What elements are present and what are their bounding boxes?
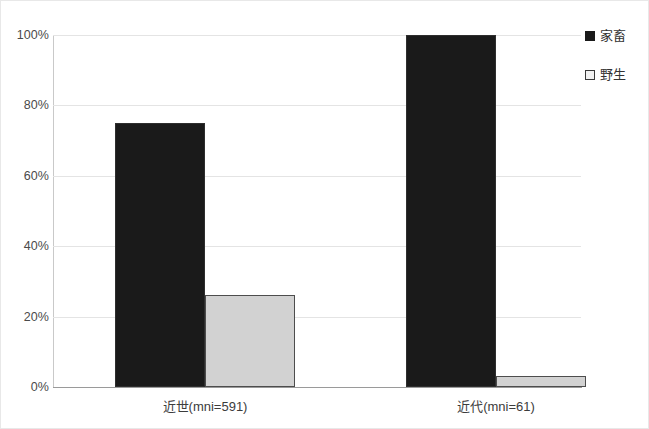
bar-wild-1 — [496, 376, 586, 387]
y-tick-label: 0% — [5, 381, 49, 394]
y-tick-label: 60% — [5, 170, 49, 183]
chart-legend: 家畜野生 — [585, 29, 647, 107]
legend-label: 野生 — [600, 68, 626, 81]
y-tick-label: 40% — [5, 240, 49, 253]
x-tick-label: 近世(mni=591) — [115, 397, 295, 417]
gridline-0 — [53, 387, 581, 388]
filled-square-icon — [585, 31, 595, 41]
outlined-square-icon — [585, 70, 595, 80]
gridline-100 — [53, 35, 581, 36]
y-axis-labels: 0%20%40%60%80%100% — [1, 35, 49, 387]
x-axis-labels: 近世(mni=591)近代(mni=61) — [53, 397, 581, 423]
y-tick-label: 80% — [5, 99, 49, 112]
legend-entry-livestock[interactable]: 家畜 — [585, 29, 647, 42]
legend-entry-wild[interactable]: 野生 — [585, 68, 647, 81]
bar-livestock-0 — [115, 123, 205, 387]
bar-wild-0 — [205, 295, 295, 387]
legend-label: 家畜 — [600, 29, 626, 42]
plot-area — [53, 35, 581, 387]
y-tick-label: 20% — [5, 311, 49, 324]
y-tick-label: 100% — [5, 29, 49, 42]
x-tick-label: 近代(mni=61) — [406, 397, 586, 417]
bar-livestock-1 — [406, 35, 496, 387]
bar-chart: 0%20%40%60%80%100% 近世(mni=591)近代(mni=61)… — [0, 0, 649, 429]
gridline-80 — [53, 105, 581, 106]
